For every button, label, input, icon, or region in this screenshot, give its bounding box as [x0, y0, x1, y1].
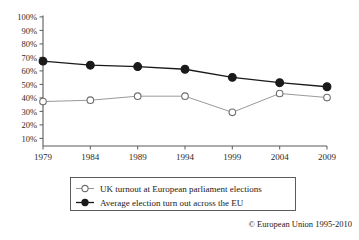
- data-point: [134, 63, 142, 71]
- y-tick-label: 100%: [17, 12, 37, 22]
- data-point: [276, 90, 283, 97]
- data-point: [182, 93, 189, 100]
- x-tick-label: 1994: [176, 152, 195, 162]
- y-tick-label: 20%: [21, 120, 37, 130]
- data-point: [228, 73, 236, 81]
- x-tick-label: 1984: [81, 152, 100, 162]
- data-point: [323, 83, 331, 91]
- y-tick-label: 80%: [21, 39, 37, 49]
- x-tick-label: 1989: [129, 152, 148, 162]
- legend-item-eu: Average election turn out across the EU: [76, 198, 244, 208]
- data-point: [276, 79, 284, 87]
- data-point: [134, 93, 141, 100]
- y-tick-label: 70%: [21, 53, 37, 63]
- data-point: [87, 97, 94, 104]
- y-tick-label: 60%: [21, 66, 37, 76]
- y-tick-label: 90%: [21, 26, 37, 36]
- copyright-credit: © European Union 1995-2010: [249, 219, 352, 229]
- data-point: [181, 65, 189, 73]
- y-tick-label: 40%: [21, 93, 37, 103]
- series-uk: [40, 90, 331, 115]
- filled-circle-marker-icon: [82, 199, 88, 205]
- y-tick-label: 10%: [21, 134, 37, 144]
- line-chart: 100% 90% 80% 70% 60% 50% 40% 30% 20% 10%…: [0, 0, 359, 240]
- data-point: [40, 98, 47, 105]
- data-point: [229, 109, 236, 116]
- y-tick-label: 50%: [21, 80, 37, 90]
- open-circle-marker-icon: [82, 185, 88, 191]
- legend-label-eu: Average election turn out across the EU: [100, 198, 244, 208]
- y-tick-label: 30%: [21, 107, 37, 117]
- data-series-layer: [39, 57, 331, 115]
- chart-container: 100% 90% 80% 70% 60% 50% 40% 30% 20% 10%…: [0, 0, 359, 240]
- data-point: [39, 57, 47, 65]
- x-tick-label: 1999: [223, 152, 242, 162]
- legend-item-uk: UK turnout at European parliament electi…: [76, 184, 262, 194]
- x-tick-label: 1979: [34, 152, 53, 162]
- legend-label-uk: UK turnout at European parliament electi…: [100, 184, 262, 194]
- x-axis-tick-labels: 1979 1984 1989 1994 1999 2004 2009: [34, 152, 337, 162]
- data-point: [86, 61, 94, 69]
- series-eu: [39, 57, 331, 90]
- y-axis-tick-labels: 100% 90% 80% 70% 60% 50% 40% 30% 20% 10%: [17, 12, 37, 144]
- x-tick-label: 2009: [318, 152, 337, 162]
- data-point: [324, 94, 331, 101]
- x-tick-label: 2004: [271, 152, 290, 162]
